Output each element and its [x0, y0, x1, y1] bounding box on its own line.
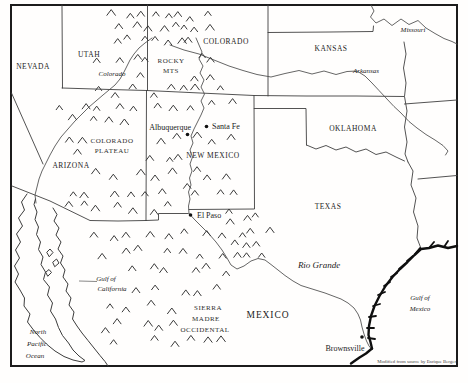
city-dot-brownsville: [360, 335, 364, 339]
state-label-arizona: ARIZONA: [52, 161, 89, 170]
river-label-colorado: Colorado: [99, 70, 126, 78]
region-label-colorado-plateau-2: PLATEAU: [95, 147, 130, 155]
border-red-river: [307, 145, 405, 161]
river-label-rio-grande: Rio Grande: [297, 260, 340, 270]
border-us-mexico: [12, 186, 146, 221]
coastlines: [15, 194, 458, 366]
border-oklahoma-panhandle: [254, 109, 306, 146]
mountain-chevrons-cluster-3: [226, 213, 274, 257]
river-label-missouri: Missouri: [400, 26, 426, 34]
water-label-gulf-mexico-1: Gulf of: [410, 294, 431, 302]
border-arizona-newmexico: [146, 91, 147, 221]
map-svg: NEVADA UTAH COLORADO KANSAS OKLAHOMA NEW…: [0, 0, 468, 383]
border-nevada-utah: [62, 5, 63, 88]
mountain-chevrons-cluster-0: [107, 10, 214, 45]
water-label-gulf-california-2: California: [97, 285, 127, 293]
state-label-new-mexico: NEW MEXICO: [186, 151, 239, 160]
city-label-el-paso: El Paso: [197, 211, 221, 220]
barrier-island-ticks: [367, 241, 448, 339]
map-page: NEVADA UTAH COLORADO KANSAS OKLAHOMA NEW…: [0, 0, 468, 383]
border-missouri-arkansas: [405, 100, 458, 104]
state-label-oklahoma: OKLAHOMA: [329, 124, 377, 133]
city-dot-albuquerque: [186, 133, 190, 137]
border-arkansas-louisiana: [418, 176, 457, 180]
border-texas-east: [408, 162, 421, 249]
map-frame: [11, 5, 457, 366]
region-label-colorado-plateau-1: COLORADO: [91, 137, 134, 145]
water-label-gulf-mexico-2: Mexico: [409, 305, 431, 313]
city-label-brownsville: Brownsville: [325, 344, 365, 353]
river-label-arkansas: Arkansas: [352, 67, 379, 75]
region-label-occidental: OCCIDENTAL: [180, 326, 229, 334]
water-label-gulf-california-1: Gulf of: [96, 275, 117, 283]
city-dot-santa-fe: [205, 125, 209, 129]
city-dot-el-paso: [189, 213, 193, 217]
region-label-madre: MADRE: [192, 315, 220, 323]
region-label-mts: MTS: [163, 67, 179, 75]
water-label-pacific-3: Ocean: [26, 352, 45, 360]
gulf-california-islands: [46, 249, 59, 276]
city-label-santa-fe: Santa Fe: [212, 122, 240, 131]
city-label-albuquerque: Albuquerque: [149, 123, 191, 132]
state-label-nevada: NEVADA: [16, 62, 50, 71]
border-newmexico-bootheel: [146, 214, 188, 221]
state-label-utah: UTAH: [78, 50, 100, 59]
state-label-kansas: KANSAS: [314, 44, 347, 53]
map-credit: Modified from source by Enrique Berger: [377, 359, 456, 364]
region-label-sierra: SIERRA: [194, 304, 222, 312]
border-california-nevada: [12, 93, 44, 164]
country-label-mexico: MEXICO: [247, 310, 290, 320]
region-label-rocky: ROCKY: [157, 57, 184, 65]
river-missouri-path: [371, 5, 458, 44]
border-kansas-north: [268, 26, 374, 33]
state-label-texas: TEXAS: [315, 202, 342, 211]
coast-baja-peninsula: [15, 194, 86, 362]
water-label-pacific-1: North: [29, 328, 47, 336]
water-label-pacific-2: Pacific: [26, 340, 48, 348]
border-kansas-oklahoma-east: [404, 42, 409, 162]
state-label-colorado: COLORADO: [203, 37, 249, 46]
gulf-california-leader-line: [79, 281, 97, 282]
